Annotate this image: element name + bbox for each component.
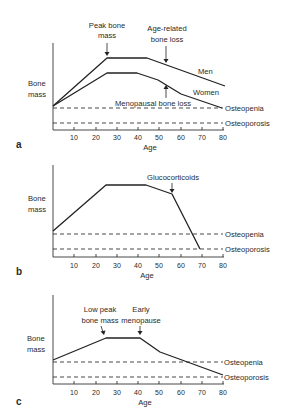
glucocorticoids-label: Glucocorticoids	[147, 173, 199, 182]
svg-text:10: 10	[70, 134, 78, 141]
svg-text:30: 30	[113, 262, 121, 269]
svg-text:60: 60	[177, 134, 185, 141]
bone-mass-curve	[53, 338, 223, 375]
y-axis-label-1: Bone	[28, 194, 46, 203]
y-axis-label-1: Bone	[28, 79, 46, 88]
men-label: Men	[198, 67, 213, 76]
panel-b: 10 20 30 40 50 60 70 80 Age Bone mass b …	[16, 165, 270, 280]
low-peak-arrow	[101, 326, 106, 335]
early-menopause-label-1: Early	[132, 305, 150, 314]
svg-text:70: 70	[198, 134, 206, 141]
svg-text:30: 30	[113, 134, 121, 141]
osteopenia-label: Osteopenia	[225, 104, 265, 113]
age-related-label-2: bone loss	[151, 35, 184, 44]
svg-text:50: 50	[155, 389, 163, 396]
osteoporosis-label: Osteoporosis	[224, 373, 269, 382]
peak-bone-mass-label-2: mass	[98, 31, 116, 40]
panel-letter-a: a	[16, 139, 22, 150]
early-menopause-label-2: menopause	[121, 316, 161, 325]
x-axis-label: Age	[138, 398, 152, 407]
svg-text:60: 60	[177, 262, 185, 269]
age-related-label-1: Age-related	[147, 24, 186, 33]
y-axis-label-2: mass	[27, 345, 45, 354]
svg-text:80: 80	[219, 134, 227, 141]
svg-text:50: 50	[155, 262, 163, 269]
women-label: Women	[193, 88, 219, 97]
osteoporosis-label: Osteoporosis	[225, 119, 270, 128]
panel-letter-b: b	[16, 266, 22, 277]
panel-letter-c: c	[16, 396, 22, 407]
x-tick-labels: 10 20 30 40 50 60 70 80	[70, 389, 227, 396]
low-peak-label-2: bone mass	[81, 316, 118, 325]
menopausal-arrow	[164, 85, 169, 98]
bone-mass-curve	[53, 185, 200, 249]
y-axis-label-2: mass	[28, 90, 46, 99]
peak-bone-mass-label-1: Peak bone	[89, 21, 125, 30]
svg-text:30: 30	[113, 389, 121, 396]
panel-c: 10 20 30 40 50 60 70 80 Age Bone mass c …	[16, 295, 269, 407]
svg-text:40: 40	[134, 134, 142, 141]
y-axis-label-2: mass	[28, 205, 46, 214]
panel-a: 10 20 30 40 50 60 70 80 Age Bone mass a …	[16, 21, 270, 152]
osteoporosis-label: Osteoporosis	[225, 245, 270, 254]
bone-mass-figure: 10 20 30 40 50 60 70 80 Age Bone mass a …	[0, 0, 287, 417]
x-tick-labels: 10 20 30 40 50 60 70 80	[70, 134, 227, 141]
svg-text:80: 80	[219, 262, 227, 269]
osteopenia-label: Osteopenia	[224, 358, 264, 367]
svg-text:50: 50	[155, 134, 163, 141]
osteopenia-label: Osteopenia	[225, 230, 265, 239]
x-axis-label: Age	[140, 271, 154, 280]
svg-text:70: 70	[198, 389, 206, 396]
glucocorticoids-arrow	[170, 183, 175, 193]
svg-text:20: 20	[92, 389, 100, 396]
svg-text:60: 60	[177, 389, 185, 396]
early-menopause-arrow	[138, 326, 143, 335]
peak-arrow	[105, 43, 110, 56]
svg-text:40: 40	[134, 389, 142, 396]
svg-text:70: 70	[198, 262, 206, 269]
age-related-arrow	[164, 46, 169, 63]
y-axis-label-1: Bone	[27, 334, 45, 343]
x-tick-labels: 10 20 30 40 50 60 70 80	[70, 262, 227, 269]
svg-text:10: 10	[70, 262, 78, 269]
low-peak-label-1: Low peak	[84, 305, 117, 314]
menopausal-label: Menopausal bone loss	[115, 99, 191, 108]
svg-text:20: 20	[92, 262, 100, 269]
svg-text:20: 20	[92, 134, 100, 141]
x-axis-label: Age	[143, 143, 157, 152]
svg-text:10: 10	[70, 389, 78, 396]
svg-text:80: 80	[219, 389, 227, 396]
svg-text:40: 40	[134, 262, 142, 269]
